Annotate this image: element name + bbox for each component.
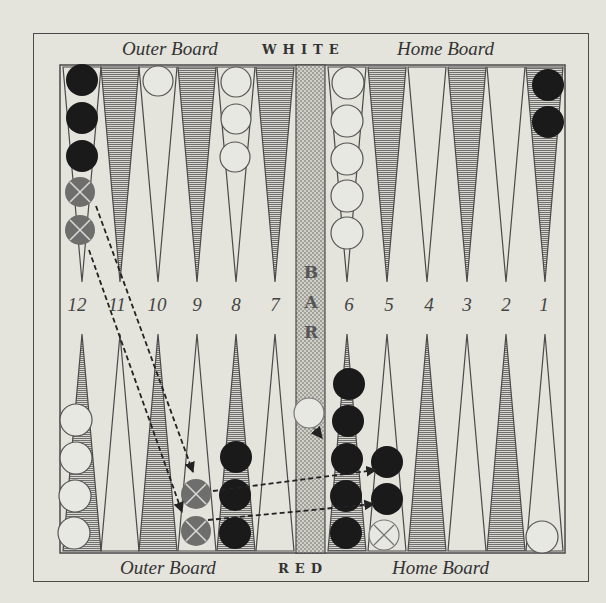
black-checker bbox=[219, 479, 251, 511]
point-number: 1 bbox=[529, 294, 559, 316]
point-number: 8 bbox=[221, 294, 251, 316]
black-checker bbox=[333, 368, 365, 400]
white-checker bbox=[143, 66, 173, 96]
white-checker bbox=[60, 442, 92, 474]
white-checker bbox=[220, 142, 250, 172]
white-checker bbox=[60, 404, 92, 436]
point-number: 7 bbox=[260, 294, 290, 316]
white-checker bbox=[332, 67, 364, 99]
point-number: 10 bbox=[142, 294, 172, 316]
white-checker bbox=[331, 217, 363, 249]
bar-white-checker bbox=[294, 398, 324, 428]
black-checker bbox=[371, 446, 403, 478]
crossed-white-checker bbox=[369, 520, 399, 550]
point-number: 2 bbox=[491, 294, 521, 316]
black-checker bbox=[331, 443, 363, 475]
black-checker bbox=[220, 441, 252, 473]
crossed-checker bbox=[181, 516, 211, 546]
black-checker bbox=[219, 517, 251, 549]
white-checker bbox=[59, 480, 91, 512]
black-checker bbox=[66, 102, 98, 134]
bar-letter: B bbox=[300, 262, 322, 282]
point-number: 4 bbox=[414, 294, 444, 316]
black-checker bbox=[532, 69, 564, 101]
point-number: 6 bbox=[334, 294, 364, 316]
bar-letter: R bbox=[300, 322, 322, 342]
point-number: 11 bbox=[102, 294, 132, 316]
black-checker bbox=[66, 140, 98, 172]
white-checker bbox=[331, 105, 363, 137]
white-checker bbox=[331, 143, 363, 175]
black-checker bbox=[332, 405, 364, 437]
white-checker bbox=[221, 67, 251, 97]
black-checker bbox=[371, 483, 403, 515]
crossed-checker bbox=[65, 215, 95, 245]
point-number: 12 bbox=[62, 294, 92, 316]
crossed-checker bbox=[65, 177, 95, 207]
black-checker bbox=[330, 517, 362, 549]
crossed-checker bbox=[181, 479, 211, 509]
bar-letter: A bbox=[300, 292, 322, 312]
point-number: 3 bbox=[452, 294, 482, 316]
black-checker bbox=[532, 106, 564, 138]
point-number: 9 bbox=[182, 294, 212, 316]
move-arrow bbox=[96, 206, 193, 472]
black-checker bbox=[66, 64, 98, 96]
point-number: 5 bbox=[374, 294, 404, 316]
white-checker bbox=[58, 517, 90, 549]
white-checker bbox=[331, 180, 363, 212]
white-checker bbox=[526, 521, 558, 553]
white-checker bbox=[221, 104, 251, 134]
move-arrow bbox=[89, 250, 182, 512]
